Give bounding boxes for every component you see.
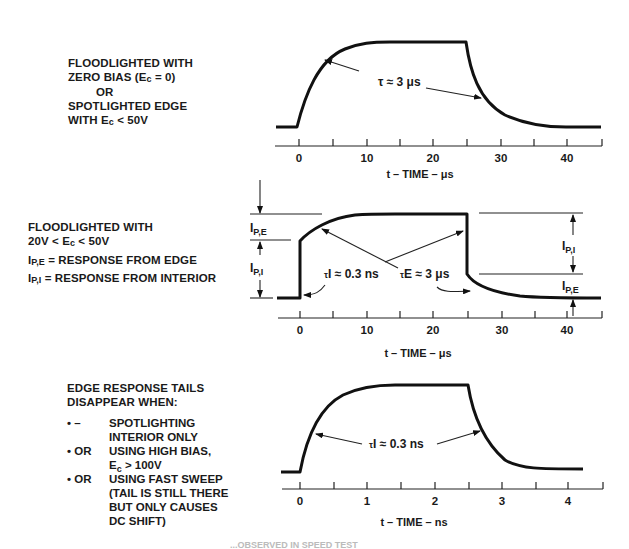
plot2-waveform: IP,E IP,I IP,I IP,E τI ≈ 0.3 ns τE ≈ 3 μ… xyxy=(250,180,601,316)
waveform-diagrams: τ ≈ 3 μs 0 10 20 30 40 t – TIME – μs xyxy=(0,0,629,549)
plot1-arrow-fall xyxy=(426,88,481,98)
plot3-tick-2: 2 xyxy=(432,495,438,507)
plot1-tick-40: 40 xyxy=(561,152,574,164)
plot1-waveform: τ ≈ 3 μs xyxy=(276,42,601,127)
plot2-arrow-tau-e-rise xyxy=(322,229,398,268)
plot2-tick-20: 20 xyxy=(427,324,440,336)
plot2-axis-title: t – TIME – μs xyxy=(384,347,451,359)
plot2-tick-40: 40 xyxy=(561,324,574,336)
plot2-tau-interior-annotation: τI ≈ 0.3 ns xyxy=(324,267,379,281)
plot3-axis-title: t – TIME – ns xyxy=(380,516,447,528)
plot2-tau-edge-annotation: τE ≈ 3 μs xyxy=(400,267,450,281)
plot2-tick-30: 30 xyxy=(496,324,509,336)
plot2-arrow-tau-e-fall xyxy=(385,231,463,262)
plot3-tick-0: 0 xyxy=(297,495,303,507)
plot3-tick-4: 4 xyxy=(565,495,572,507)
plot3-waveform: τI ≈ 0.3 ns xyxy=(281,385,583,472)
plot1-tick-0: 0 xyxy=(296,152,302,164)
plot2-left-ipe-label: IP,E xyxy=(250,221,267,237)
figure-caption-partial: ...OBSERVED IN SPEED TEST xyxy=(230,540,358,549)
plot1-tick-20: 20 xyxy=(427,152,440,164)
plot1-x-axis: 0 10 20 30 40 t – TIME – μs xyxy=(275,139,602,180)
plot3-tick-3: 3 xyxy=(499,495,505,507)
plot1-response-curve xyxy=(276,42,601,127)
plot2-arrow-tail xyxy=(437,287,470,292)
plot2-right-ipe-label: IP,E xyxy=(562,279,579,295)
plot1-axis-title: t – TIME – μs xyxy=(386,168,453,180)
plot2-tick-10: 10 xyxy=(361,324,374,336)
plot3-tick-1: 1 xyxy=(364,495,371,507)
plot2-right-ipi-label: IP,I xyxy=(562,239,575,255)
plot1-tick-10: 10 xyxy=(361,152,374,164)
plot2-left-ipi-label: IP,I xyxy=(250,261,263,277)
plot1-tau-annotation: τ ≈ 3 μs xyxy=(378,75,421,89)
plot2-tick-0: 0 xyxy=(297,324,303,336)
plot2-x-axis: 0 10 20 30 40 t – TIME – μs xyxy=(278,311,602,359)
plot2-arrow-tau-i xyxy=(304,285,325,295)
plot3-response-curve xyxy=(281,385,583,472)
plot1-arrow-rise xyxy=(325,60,359,71)
plot3-x-axis: 0 1 2 3 4 t – TIME – ns xyxy=(282,482,603,528)
plot3-arrow-fall xyxy=(437,431,480,444)
plot1-tick-30: 30 xyxy=(495,152,508,164)
plot3-arrow-rise xyxy=(316,434,362,444)
plot2-response-curve xyxy=(277,214,601,298)
plot3-tau-annotation: τI ≈ 0.3 ns xyxy=(369,437,424,451)
